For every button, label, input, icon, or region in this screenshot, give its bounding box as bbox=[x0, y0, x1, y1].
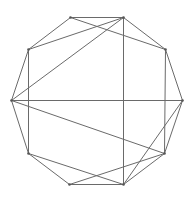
edge-V8-V4 bbox=[12, 101, 165, 154]
vertex-V7 bbox=[27, 152, 30, 155]
vertex-V5 bbox=[122, 183, 125, 186]
edge-V9-V0 bbox=[29, 18, 71, 50]
vertex-V8 bbox=[10, 99, 13, 102]
edges-group bbox=[12, 18, 183, 185]
edge-V0-V2 bbox=[71, 18, 166, 50]
edge-V3-V4 bbox=[165, 101, 183, 154]
edge-V2-V3 bbox=[166, 50, 183, 101]
edge-V1-V2 bbox=[124, 18, 166, 50]
vertex-V4 bbox=[163, 152, 166, 155]
edge-V2-V4 bbox=[165, 50, 166, 154]
edge-V8-V9 bbox=[12, 50, 29, 101]
vertex-V2 bbox=[164, 48, 167, 51]
vertex-V1 bbox=[122, 16, 125, 19]
vertex-V0 bbox=[69, 16, 72, 19]
edge-V7-V5 bbox=[29, 154, 124, 185]
edge-V6-V4 bbox=[70, 154, 165, 185]
vertex-V3 bbox=[181, 99, 184, 102]
vertex-V9 bbox=[27, 48, 30, 51]
edge-V4-V5 bbox=[124, 154, 165, 185]
decagon-diagram bbox=[0, 0, 194, 198]
vertex-V6 bbox=[68, 183, 71, 186]
edge-V6-V7 bbox=[29, 154, 70, 185]
edge-V7-V8 bbox=[12, 101, 29, 154]
edge-V9-V1 bbox=[29, 18, 124, 50]
